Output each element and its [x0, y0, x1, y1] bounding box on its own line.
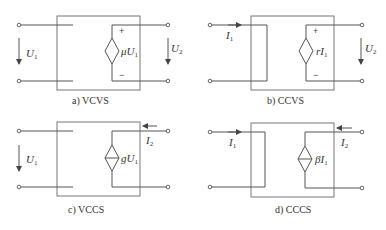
- output-terminal-bottom: [360, 79, 364, 83]
- caption: d) CCCS: [275, 204, 311, 216]
- caption: b) CCVS: [267, 95, 304, 107]
- source-label: βI1: [314, 153, 328, 167]
- output-label: I2: [145, 134, 154, 148]
- output-label: U2: [171, 42, 183, 56]
- dependent-sources-diagram: U1 + − μU1 U2 a) VCVS I1 + − rI1 U2 b) C…: [0, 0, 386, 230]
- caption: a) VCVS: [72, 95, 109, 107]
- output-terminal-bottom: [166, 185, 170, 189]
- output-terminal-top: [360, 23, 364, 27]
- source-label: gU1: [121, 152, 138, 166]
- plus-sign: +: [119, 26, 124, 36]
- output-label: I2: [340, 136, 349, 150]
- input-terminal-bottom: [208, 185, 212, 189]
- panel-cccs: I1 βI1 I2 d) CCCS: [208, 123, 364, 216]
- dependent-voltage-source-icon: [299, 38, 313, 64]
- input-label: I1: [225, 29, 234, 43]
- input-terminal-top: [17, 23, 21, 27]
- output-label: U2: [365, 42, 377, 56]
- minus-sign: −: [119, 70, 124, 80]
- source-label: μU1: [120, 45, 138, 59]
- output-terminal-bottom: [166, 79, 170, 83]
- output-terminal-bottom: [360, 186, 364, 190]
- input-terminal-bottom: [17, 185, 21, 189]
- input-label: I1: [228, 136, 237, 150]
- output-terminal-top: [166, 23, 170, 27]
- input-terminal-bottom: [17, 79, 21, 83]
- input-terminal-bottom: [208, 79, 212, 83]
- dependent-voltage-source-icon: [105, 38, 119, 64]
- caption: c) VCCS: [68, 204, 104, 216]
- plus-sign: +: [313, 26, 318, 36]
- panel-ccvs: I1 + − rI1 U2 b) CCVS: [208, 16, 377, 107]
- input-label: U1: [26, 47, 38, 61]
- output-terminal-top: [166, 129, 170, 133]
- panel-vcvs: U1 + − μU1 U2 a) VCVS: [17, 16, 183, 107]
- input-terminal-top: [208, 130, 212, 134]
- output-terminal-top: [360, 130, 364, 134]
- input-terminal-top: [17, 129, 21, 133]
- panel-vccs: U1 gU1 I2 c) VCCS: [17, 122, 170, 216]
- input-terminal-top: [208, 23, 212, 27]
- input-label: U1: [26, 153, 38, 167]
- source-label: rI1: [316, 45, 328, 59]
- minus-sign: −: [313, 70, 318, 80]
